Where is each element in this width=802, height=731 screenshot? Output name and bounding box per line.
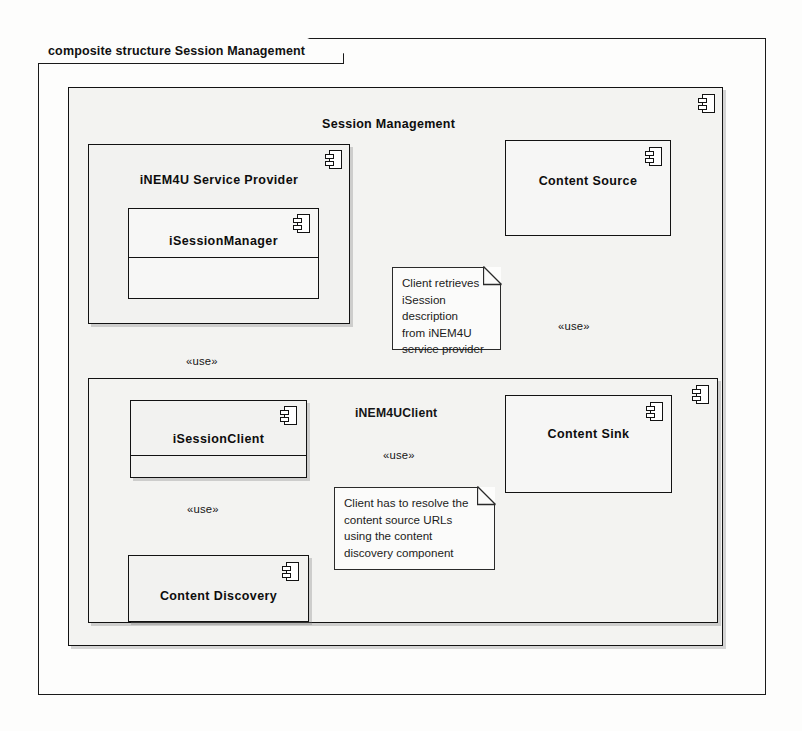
component-icon	[293, 214, 310, 233]
edge-label-use-source: «use»	[558, 320, 590, 332]
component-isession-client-divider	[130, 455, 307, 456]
component-isession-client-label: iSessionClient	[130, 432, 307, 446]
edge-label-inem4u-client: iNEM4UClient	[355, 406, 437, 420]
edge-label-use-provider: «use»	[186, 355, 218, 367]
component-icon	[280, 406, 297, 425]
component-content-discovery-label: Content Discovery	[128, 589, 309, 603]
component-isession-manager-label: iSessionManager	[128, 234, 319, 248]
component-icon	[692, 385, 709, 404]
component-icon	[282, 562, 299, 581]
component-content-sink-label: Content Sink	[505, 427, 672, 441]
component-icon	[645, 147, 662, 166]
note-fold-edge	[483, 266, 503, 286]
note-fold-edge	[477, 486, 497, 506]
component-icon	[325, 150, 342, 169]
container-session-management-label: Session Management	[322, 117, 455, 131]
component-isession-manager[interactable]	[128, 208, 319, 299]
component-icon	[698, 94, 715, 113]
component-inem4u-service-provider-label: iNEM4U Service Provider	[88, 173, 350, 187]
component-content-source-label: Content Source	[505, 174, 671, 188]
component-icon	[646, 402, 663, 421]
edge-label-use-discovery: «use»	[187, 503, 219, 515]
component-isession-manager-divider	[128, 257, 319, 258]
diagram-canvas: iSessionManager (vertical dashed, arrow …	[0, 0, 802, 731]
diagram-frame-label: composite structure Session Management	[48, 44, 305, 58]
note-content-discovery[interactable]: Client has to resolve the content source…	[334, 487, 495, 570]
edge-label-use-sink: «use»	[383, 449, 415, 461]
